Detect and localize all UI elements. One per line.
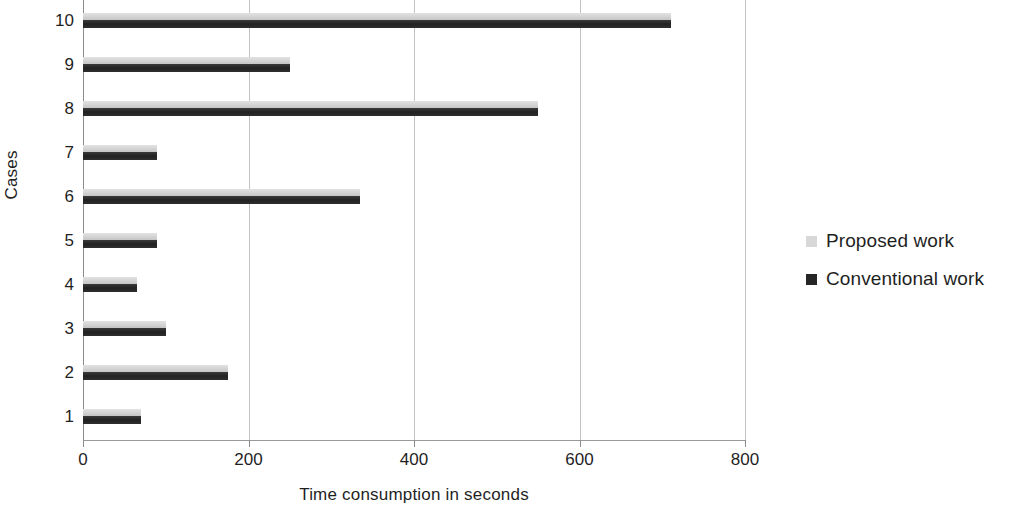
legend-label-proposed: Proposed work [826,230,954,252]
x-axis-tick [580,440,581,447]
x-axis-tick [414,440,415,447]
legend-item-proposed: Proposed work [806,222,1021,260]
y-axis-label-case-2: 2 [34,363,74,383]
y-axis-label-case-9: 9 [34,55,74,75]
bar-proposed-case-10 [83,13,671,20]
gridline [414,0,415,440]
y-axis-label-case-8: 8 [34,99,74,119]
y-axis-label-case-5: 5 [34,231,74,251]
bar-conventional-case-8 [83,108,538,116]
y-axis-label-case-1: 1 [34,407,74,427]
y-axis-title: Cases [2,115,22,235]
bar-conventional-case-5 [83,240,157,248]
bar-proposed-case-9 [83,57,290,64]
bar-conventional-case-7 [83,152,157,160]
x-axis-tick-label: 600 [550,450,610,470]
x-axis-tick-label: 200 [219,450,279,470]
bar-conventional-case-6 [83,196,360,204]
legend-label-conventional: Conventional work [826,268,984,290]
bar-conventional-case-3 [83,328,166,336]
bar-conventional-case-9 [83,64,290,72]
bar-proposed-case-3 [83,321,166,328]
gridline [745,0,746,440]
bar-conventional-case-2 [83,372,228,380]
bar-proposed-case-1 [83,409,141,416]
y-axis-label-case-3: 3 [34,319,74,339]
legend-swatch-icon-proposed [806,236,817,247]
bar-proposed-case-2 [83,365,228,372]
y-axis-label-case-6: 6 [34,187,74,207]
y-axis-label-case-10: 10 [34,11,74,31]
bar-chart: Cases 0200400600800 12345678910 Time con… [0,0,1028,518]
bar-proposed-case-7 [83,145,157,152]
legend-swatch-icon-conventional [806,274,817,285]
bar-conventional-case-1 [83,416,141,424]
x-axis-tick-label: 0 [53,450,113,470]
x-axis-title: Time consumption in seconds [83,485,745,505]
bar-proposed-case-6 [83,189,360,196]
x-axis-tick [83,440,84,447]
y-axis-label-case-4: 4 [34,275,74,295]
x-axis-tick [745,440,746,447]
x-axis-tick-label: 800 [715,450,775,470]
bar-conventional-case-4 [83,284,137,292]
x-axis-tick [249,440,250,447]
x-axis-tick-label: 400 [384,450,444,470]
chart-legend: Proposed work Conventional work [806,222,1021,298]
y-axis-label-case-7: 7 [34,143,74,163]
bar-proposed-case-8 [83,101,538,108]
bar-proposed-case-4 [83,277,137,284]
legend-item-conventional: Conventional work [806,260,1021,298]
bar-proposed-case-5 [83,233,157,240]
gridline [580,0,581,440]
bar-conventional-case-10 [83,20,671,28]
